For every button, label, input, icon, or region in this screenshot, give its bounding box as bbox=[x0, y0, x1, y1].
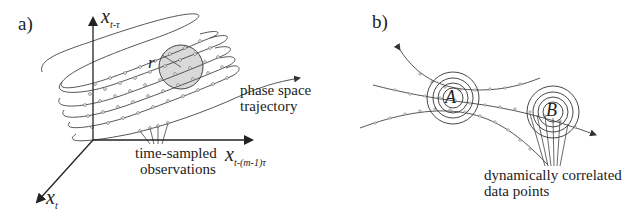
axis-horizontal-var: x bbox=[225, 143, 234, 165]
correlated-label-line1: dynamically correlated bbox=[484, 167, 622, 183]
sample-dots bbox=[84, 40, 229, 133]
correlated-label-line2: data points bbox=[484, 183, 622, 199]
observation-leaders bbox=[140, 123, 168, 144]
axis-horizontal-sub: t-(m-1)τ bbox=[234, 157, 266, 168]
axis-diagonal-sub: t bbox=[55, 200, 58, 211]
observations-label: time-sampled observations bbox=[135, 145, 217, 177]
axis-vertical-label: xt-τ bbox=[101, 6, 120, 30]
observations-label-line2: observations bbox=[135, 161, 217, 177]
axis-vertical-sub: t-τ bbox=[110, 19, 120, 30]
axis-vertical-var: x bbox=[101, 5, 110, 27]
axis-horizontal-label: xt-(m-1)τ bbox=[225, 144, 266, 168]
trajectory-label-line1: phase space bbox=[240, 82, 311, 98]
trajectories-b bbox=[360, 50, 596, 165]
panel-b-tag: b) bbox=[372, 12, 388, 31]
trajectory-label-line2: trajectory bbox=[240, 98, 311, 114]
trajectory-label: phase space trajectory bbox=[240, 82, 311, 114]
observations-label-line1: time-sampled bbox=[135, 145, 217, 161]
phase-space-trajectory bbox=[42, 14, 300, 141]
radius-label: r bbox=[148, 54, 155, 71]
axis-diagonal-var: x bbox=[46, 186, 55, 208]
panel-b bbox=[360, 50, 596, 166]
point-b-label: B bbox=[546, 101, 557, 119]
correlated-points-label: dynamically correlated data points bbox=[484, 167, 622, 199]
panel-a-tag: a) bbox=[18, 14, 33, 33]
point-a-label: A bbox=[445, 88, 456, 106]
axis-diagonal-label: xt bbox=[46, 187, 58, 211]
